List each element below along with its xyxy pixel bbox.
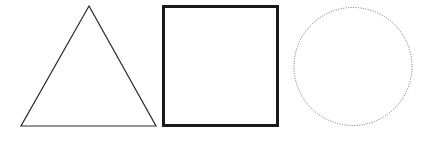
square-shape xyxy=(164,7,278,126)
shapes-canvas xyxy=(0,0,426,144)
dotted-circle-shape xyxy=(294,8,412,126)
triangle-shape xyxy=(21,6,156,126)
